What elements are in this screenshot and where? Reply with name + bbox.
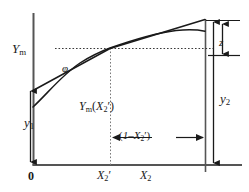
span-close-paren: ) xyxy=(147,129,151,141)
y1-label-sub: 1 xyxy=(30,121,34,131)
y1-measure-label: y1 xyxy=(24,116,34,131)
ymx2-base: Y xyxy=(79,99,86,113)
x-axis-label: X2 xyxy=(140,169,151,183)
span-text: 1–X xyxy=(123,129,141,141)
x2p-prime: ′ xyxy=(108,168,111,182)
y-axis-label: Ym xyxy=(12,42,26,57)
figure-container: Ym φ y1 Ym(X2′) (1–X2′) z y2 0 X2′ X2 xyxy=(0,0,249,192)
intersection-value-label: Ym(X2′) xyxy=(79,100,114,114)
x-tick-label-x2-prime: X2′ xyxy=(97,169,111,183)
origin-label: 0 xyxy=(28,170,34,182)
y-axis-label-sub: m xyxy=(19,47,26,57)
angle-phi-label: φ xyxy=(62,63,68,74)
y2-measure-label: y2 xyxy=(220,92,230,107)
diagram-canvas xyxy=(0,0,249,192)
span-measure-label: (1–X2′) xyxy=(119,130,150,143)
ymx2-close-paren: ) xyxy=(110,99,114,113)
z-measure-label: z xyxy=(219,37,223,48)
response-curve xyxy=(33,30,205,107)
y2-label-sub: 2 xyxy=(226,97,230,107)
x2-sub: 2 xyxy=(147,174,151,183)
